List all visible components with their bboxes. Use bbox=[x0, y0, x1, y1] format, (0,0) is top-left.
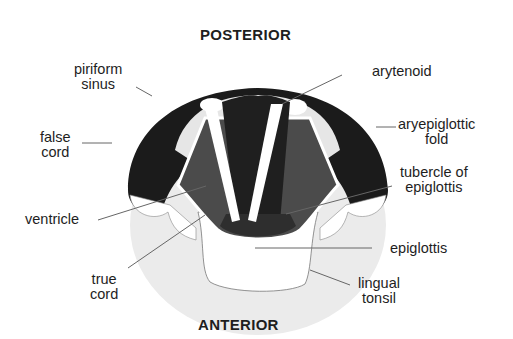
label-tubercle-of-epiglottis: tubercle of epiglottis bbox=[400, 165, 468, 195]
larynx-diagram: POSTERIOR ANTERIOR piriform sinus false … bbox=[0, 0, 513, 339]
label-piriform-sinus: piriform sinus bbox=[74, 62, 122, 92]
label-epiglottis: epiglottis bbox=[390, 241, 447, 256]
anterior-label: ANTERIOR bbox=[198, 316, 279, 333]
label-ventricle: ventricle bbox=[25, 212, 79, 227]
label-lingual-tonsil: lingual tonsil bbox=[358, 276, 400, 306]
label-arytenoid: arytenoid bbox=[372, 64, 432, 79]
label-false-cord: false cord bbox=[40, 130, 71, 160]
posterior-label: POSTERIOR bbox=[200, 26, 291, 43]
label-true-cord: true cord bbox=[90, 272, 118, 302]
label-aryepiglottic-fold: aryepiglottic fold bbox=[398, 117, 475, 147]
